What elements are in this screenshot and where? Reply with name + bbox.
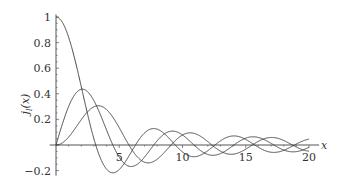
x-tick-label: 20 bbox=[302, 151, 316, 164]
x-tick-label: 10 bbox=[176, 151, 190, 164]
y-tick-label: −0.2 bbox=[24, 165, 51, 178]
y-tick-label: 0.8 bbox=[34, 37, 52, 50]
x-tick-label: 5 bbox=[116, 151, 123, 164]
bessel-function-chart: 5101520−0.20.20.40.60.81 jl(x) x bbox=[0, 0, 343, 193]
y-tick-label: 0.2 bbox=[34, 113, 52, 126]
y-axis-label: jl(x) bbox=[19, 94, 34, 118]
series-j0x-line bbox=[56, 17, 309, 173]
y-tick-label: 1 bbox=[44, 11, 51, 24]
y-tick-label: 0.4 bbox=[34, 88, 52, 101]
plot-curves bbox=[56, 17, 309, 173]
x-axis-label: x bbox=[321, 139, 328, 152]
y-tick-label: 0.6 bbox=[34, 62, 52, 75]
x-tick-label: 15 bbox=[239, 151, 253, 164]
